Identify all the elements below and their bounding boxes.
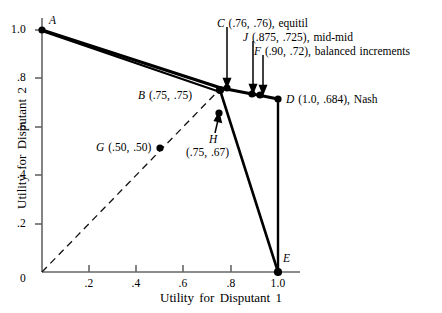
x-tick-label-0.8: .8: [211, 277, 251, 289]
annotation-h-letter: H: [209, 133, 217, 145]
y-axis-title: Utility for Disputant 2: [14, 68, 30, 228]
annotation-d-text: (1.0, .684), Nash: [294, 93, 377, 105]
segment-b-to-e: [220, 90, 278, 272]
annotation-h-coords: (.75, .67): [186, 146, 229, 158]
annotation-f-letter: F: [254, 45, 261, 57]
point-marker-H: [215, 109, 222, 116]
point-marker-J: [248, 90, 255, 97]
annotation-g: G (.50, .50): [96, 141, 151, 153]
utility-bargaining-chart: 1.0 .8 .6 .4 .2 0 .2 .4 .6 .8 1.0 Utilit…: [0, 0, 442, 313]
point-marker-D: [274, 95, 281, 102]
annotation-f: F (.90, .72), balanced increments: [254, 45, 410, 57]
point-marker-F: [256, 91, 263, 98]
y-tick-label-0: 0: [0, 272, 26, 284]
annotation-g-text: (.50, .50): [104, 141, 151, 153]
y-axis-ticks: [35, 30, 42, 224]
x-axis-title: Utility for Disputant 1: [0, 290, 442, 306]
point-marker-B: [216, 86, 224, 94]
x-tick-label-0.2: .2: [69, 277, 109, 289]
x-tick-label-1.0: 1.0: [258, 277, 298, 289]
x-tick-label-0.6: .6: [163, 277, 203, 289]
frontier-inner-line: [42, 31, 220, 92]
annotation-h-letter-row: H: [209, 133, 217, 145]
annotation-j-text: (.875, .725), mid-mid: [248, 31, 353, 43]
annotation-c: C (.76, .76), equitil: [217, 17, 308, 29]
annotation-b-letter: B: [138, 89, 145, 101]
x-axis-ticks: [89, 265, 278, 272]
point-marker-C: [223, 84, 230, 91]
annotation-j: J (.875, .725), mid-mid: [243, 31, 353, 43]
data-point-markers: [38, 26, 282, 276]
annotation-b: B (.75, .75): [138, 89, 192, 101]
y-tick-label-1.0: 1.0: [0, 23, 26, 35]
point-marker-G: [156, 144, 163, 151]
annotation-c-letter: C: [217, 17, 225, 29]
point-marker-A: [38, 26, 45, 33]
point-marker-E: [274, 268, 282, 276]
annotation-b-text: (.75, .75): [145, 89, 192, 101]
point-label-A: A: [49, 14, 56, 26]
equal-utility-dashed-line: [42, 88, 221, 272]
annotation-d: D (1.0, .684), Nash: [286, 93, 377, 105]
annotation-c-text: (.76, .76), equitil: [225, 17, 308, 29]
point-label-E: E: [283, 252, 290, 264]
x-tick-label-0.4: .4: [116, 277, 156, 289]
annotation-f-text: (.90, .72), balanced increments: [261, 45, 410, 57]
